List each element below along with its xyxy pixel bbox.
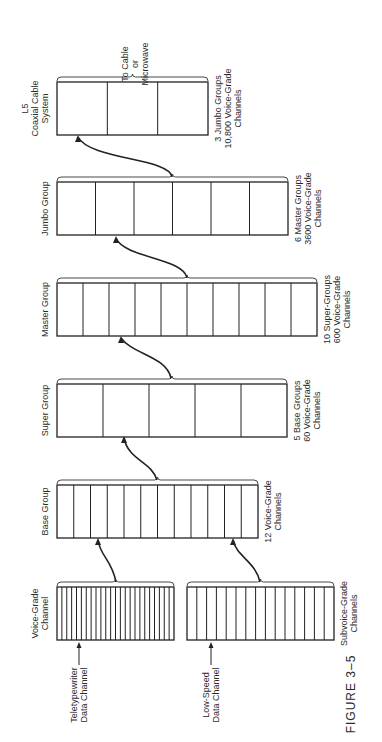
jumbo-group-note-line: 3600 Voice-Grade	[303, 172, 313, 245]
voice-grade-title-line: Voice-Grade	[30, 588, 40, 638]
l5-system-title-line: L5	[20, 103, 30, 113]
arrowhead	[75, 135, 81, 142]
voice-grade-box	[57, 587, 174, 640]
jumbo-group-title: Jumbo Group	[40, 181, 50, 236]
subvoice-grade-pointer-label-line: Low-Speed	[201, 672, 211, 718]
l5-system-output-line: Microwave	[140, 42, 150, 85]
teletypewriter-pointer-head	[77, 642, 82, 648]
l5-system-note-line: Channels	[233, 89, 243, 128]
multiplexing-hierarchy-diagram: Voice-GradeChannelTeletypewriterData Cha…	[0, 0, 382, 742]
l5-system-output-line: or	[130, 60, 140, 68]
super-group-note-line: Channels	[312, 391, 322, 430]
subvoice-grade-pointer-label-line: Data Channel	[211, 667, 221, 722]
base-group-note-line: Channels	[273, 492, 283, 531]
super-group-brace	[57, 376, 287, 383]
voice-grade-pointer-label: TeletypewriterData Channel	[69, 667, 89, 723]
subvoice-grade-note-line: Channels	[349, 594, 359, 633]
super-group-title-line: Super Group	[40, 385, 50, 437]
subvoice-grade-note-line: Subvoice-Grade	[339, 581, 349, 646]
super-group-title: Super Group	[40, 385, 50, 437]
master-group-note-line: Channels	[342, 290, 352, 329]
master-group-title-line: Master Group	[40, 282, 50, 337]
l5-system-title: L5Coaxial CableSystem	[20, 80, 50, 136]
jumbo-group-note-line: 6 Master Groups	[293, 174, 303, 242]
voice-grade-title-line: Channel	[40, 597, 50, 631]
master-group-title: Master Group	[40, 282, 50, 337]
base-group-title: Base Group	[40, 487, 50, 535]
lowspeed-pointer-head	[209, 642, 214, 648]
l5-system-title-line: Coaxial Cable	[30, 80, 40, 136]
jumbo-group-title-line: Jumbo Group	[40, 181, 50, 236]
l5-system-note-line: 3 Jumbo Groups	[213, 75, 223, 142]
l5-system-brace	[57, 74, 208, 81]
master-group-box	[57, 283, 317, 336]
figure-caption: FIGURE 3–5	[344, 655, 358, 734]
master-group-note-line: 10 Super-Groups	[322, 274, 332, 344]
arrow-jumbo-to-l5	[78, 137, 172, 177]
base-group-note: 12 Voice-GradeChannels	[263, 480, 283, 543]
arrow-master-to-jumbo	[116, 238, 187, 278]
arrowhead	[95, 538, 101, 545]
master-group-note-line: 600 Voice-Grade	[332, 276, 342, 344]
l5-system-note: 3 Jumbo Groups10,800 Voice-GradeChannels	[213, 68, 243, 148]
super-group-note: 5 Base Groups60 Voice-GradeChannels	[292, 379, 322, 442]
l5-system-title-line: System	[40, 93, 50, 123]
l5-system-output: To CableorMicrowave	[120, 42, 150, 85]
subvoice-grade-note: Subvoice-GradeChannels	[339, 581, 359, 646]
l5-system-note-line: 10,800 Voice-Grade	[223, 68, 233, 148]
jumbo-group-note-line: Channels	[313, 189, 323, 228]
subvoice-grade-pointer-label: Low-SpeedData Channel	[201, 667, 221, 722]
super-group-box	[57, 384, 287, 437]
master-group-note: 10 Super-Groups600 Voice-GradeChannels	[322, 274, 352, 344]
subvoice-grade-brace	[187, 579, 334, 586]
voice-grade-title: Voice-GradeChannel	[30, 588, 50, 638]
l5-system-box	[57, 82, 208, 135]
arrowhead	[230, 538, 236, 545]
arrow-voice-to-base	[98, 540, 116, 582]
base-group-title-line: Base Group	[40, 487, 50, 535]
base-group-box	[57, 485, 258, 538]
arrow-super-to-master	[121, 338, 171, 378]
base-group-brace	[57, 477, 258, 484]
arrow-subvoice-to-base	[233, 540, 260, 582]
jumbo-group-box	[57, 182, 288, 235]
l5-system-output-line: To Cable	[120, 46, 130, 82]
voice-grade-pointer-label-line: Teletypewriter	[69, 667, 79, 723]
arrowhead	[113, 236, 119, 243]
arrow-base-to-super	[124, 438, 157, 480]
super-group-note-line: 60 Voice-Grade	[302, 379, 312, 442]
super-group-note-line: 5 Base Groups	[292, 380, 302, 441]
voice-grade-pointer-label-line: Data Channel	[79, 667, 89, 722]
base-group-note-line: 12 Voice-Grade	[263, 480, 273, 543]
jumbo-group-note: 6 Master Groups3600 Voice-GradeChannels	[293, 172, 323, 245]
jumbo-group-brace	[57, 174, 288, 181]
subvoice-grade-box	[187, 587, 334, 640]
